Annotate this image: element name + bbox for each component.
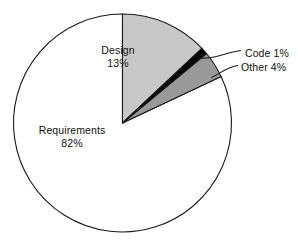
slice-label-requirements-value: 82% <box>39 137 106 150</box>
slice-label-code: Code 1% <box>245 47 289 60</box>
slice-label-other: Other 4% <box>241 61 286 74</box>
slice-label-requirements: Requirements 82% <box>39 124 106 149</box>
slice-label-requirements-name: Requirements <box>39 124 106 137</box>
slice-label-other-text: Other 4% <box>241 61 286 73</box>
slice-label-design: Design 13% <box>101 44 134 69</box>
pie-chart-canvas <box>0 0 298 241</box>
pie-chart: Design 13% Requirements 82% Code 1% Othe… <box>0 0 298 241</box>
slice-label-code-text: Code 1% <box>245 47 289 59</box>
slice-label-design-value: 13% <box>101 57 134 70</box>
slice-label-design-name: Design <box>101 44 134 57</box>
